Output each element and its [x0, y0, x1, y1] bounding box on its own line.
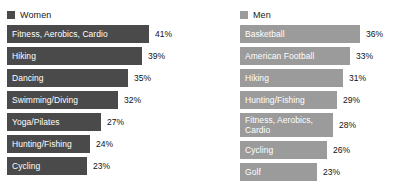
- bar-row: American Football 33%: [240, 47, 400, 65]
- bar: Yoga/Pilates: [7, 113, 101, 131]
- bar-value: 26%: [333, 145, 350, 155]
- women-bars: Fitness, Aerobics, Cardio 41% Hiking 39%…: [7, 25, 200, 175]
- bar-value: 35%: [134, 73, 151, 83]
- bar-row: Hunting/Fishing 24%: [7, 135, 200, 153]
- bar-value: 41%: [155, 29, 172, 39]
- bar-label: Hiking: [12, 51, 36, 61]
- bar-label: Hunting/Fishing: [12, 139, 72, 149]
- bar: Dancing: [7, 69, 128, 87]
- bar-row: Fitness, Aerobics, Cardio 28%: [240, 113, 400, 137]
- bar-value: 23%: [323, 167, 340, 177]
- bar-value: 23%: [93, 161, 110, 171]
- bar-label: Fitness, Aerobics, Cardio: [12, 29, 108, 39]
- bar-label: Dancing: [12, 73, 44, 83]
- women-legend: Women: [7, 9, 200, 21]
- bar-row: Hiking 31%: [240, 69, 400, 87]
- bar-value: 39%: [148, 51, 165, 61]
- bar-row: Cycling 26%: [240, 141, 400, 159]
- bar-label: Basketball: [245, 29, 285, 39]
- bar-value: 33%: [356, 51, 373, 61]
- bar: Basketball: [240, 25, 360, 43]
- bar-row: Swimming/Diving 32%: [7, 91, 200, 109]
- bar-value: 28%: [339, 120, 356, 130]
- bar-row: Fitness, Aerobics, Cardio 41%: [7, 25, 200, 43]
- bar-row: Basketball 36%: [240, 25, 400, 43]
- bar: Cycling: [240, 141, 327, 159]
- men-legend-swatch-icon: [240, 11, 248, 19]
- bar-value: 27%: [107, 117, 124, 127]
- bar: Swimming/Diving: [7, 91, 118, 109]
- bar-label: Hiking: [245, 73, 269, 83]
- bar-row: Golf 23%: [240, 163, 400, 181]
- bar-value: 36%: [366, 29, 383, 39]
- bar-value: 24%: [96, 139, 113, 149]
- bar-label: Cycling: [12, 161, 40, 171]
- bar-label: American Football: [245, 51, 314, 61]
- women-legend-label: Women: [20, 10, 51, 20]
- bar: Cycling: [7, 157, 87, 175]
- bar-label: Golf: [245, 167, 261, 177]
- dual-bar-chart-figure: Women Fitness, Aerobics, Cardio 41% Hiki…: [0, 0, 401, 190]
- bar-row: Yoga/Pilates 27%: [7, 113, 200, 131]
- bar-label: Swimming/Diving: [12, 95, 78, 105]
- women-chart-panel: Women Fitness, Aerobics, Cardio 41% Hiki…: [0, 0, 200, 190]
- men-legend: Men: [240, 9, 400, 21]
- bar-label: Fitness, Aerobics, Cardio: [245, 115, 313, 135]
- bar-row: Cycling 23%: [7, 157, 200, 175]
- bar-value: 29%: [343, 95, 360, 105]
- bar: Hiking: [240, 69, 343, 87]
- men-legend-label: Men: [253, 10, 271, 20]
- bar-label: Cycling: [245, 145, 273, 155]
- women-legend-swatch-icon: [7, 11, 15, 19]
- bar: Fitness, Aerobics, Cardio: [240, 113, 333, 137]
- bar-label: Hunting/Fishing: [245, 95, 305, 105]
- men-chart-panel: Men Basketball 36% American Football 33%…: [200, 0, 400, 190]
- men-bars: Basketball 36% American Football 33% Hik…: [240, 25, 400, 181]
- bar: Hunting/Fishing: [7, 135, 90, 153]
- bar-value: 31%: [349, 73, 366, 83]
- bar: Hiking: [7, 47, 142, 65]
- bar-row: Hunting/Fishing 29%: [240, 91, 400, 109]
- bar-row: Hiking 39%: [7, 47, 200, 65]
- bar: Fitness, Aerobics, Cardio: [7, 25, 149, 43]
- bar-row: Dancing 35%: [7, 69, 200, 87]
- bar: Hunting/Fishing: [240, 91, 337, 109]
- bar: American Football: [240, 47, 350, 65]
- bar-value: 32%: [124, 95, 141, 105]
- bar-label: Yoga/Pilates: [12, 117, 60, 127]
- bar: Golf: [240, 163, 317, 181]
